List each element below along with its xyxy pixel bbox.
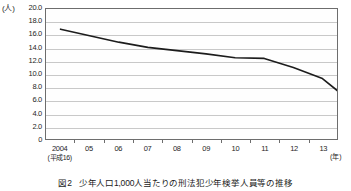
x-axis-tick-label: 07 (144, 144, 152, 153)
x-axis-tick (133, 140, 134, 143)
figure-container: (人) 02.04.06.08.010.012.014.016.018.020.… (0, 0, 351, 191)
plot-area (45, 8, 338, 140)
x-axis-unit-label: (年) (330, 153, 342, 161)
y-axis-tick-label: 14.0 (16, 44, 42, 52)
y-axis-tick-labels: 02.04.06.08.010.012.014.016.018.020.0 (16, 8, 42, 140)
y-axis-tick-label: 6.0 (16, 96, 42, 104)
x-axis-tick-label: 11 (261, 144, 268, 153)
x-axis-tick (309, 140, 310, 143)
y-axis-tick-label: 20.0 (16, 4, 42, 12)
y-axis-tick-label: 12.0 (16, 57, 42, 65)
y-axis-tick-label: 8.0 (16, 83, 42, 91)
x-axis-tick (250, 140, 251, 143)
x-axis-tick-label: 2004(平成16) (48, 144, 72, 162)
y-axis-tick-label: 16.0 (16, 30, 42, 38)
x-axis-tick-label: 13 (319, 144, 327, 153)
x-axis-tick (279, 140, 280, 143)
x-axis-tick-label: 05 (85, 144, 93, 153)
y-axis-tick-label: 2.0 (16, 123, 42, 131)
x-axis-tick (162, 140, 163, 143)
x-axis-era-label: (平成16) (48, 153, 72, 162)
figure-caption: 図2少年人口1,000人当たりの刑法犯少年検挙人員等の推移 (0, 178, 351, 189)
x-axis-tick-labels: 2004(平成16)050607080910111213 (45, 144, 338, 164)
y-axis-tick-label: 0 (16, 136, 42, 144)
y-axis-unit-label: (人) (2, 4, 15, 13)
y-axis-tick-label: 4.0 (16, 110, 42, 118)
x-axis-tick (221, 140, 222, 143)
line-series-svg (46, 9, 337, 139)
x-axis-tick (104, 140, 105, 143)
x-axis-tick (74, 140, 75, 143)
y-axis-tick-label: 10.0 (16, 70, 42, 78)
x-axis-tick-label: 09 (202, 144, 210, 153)
x-axis-tick-label: 06 (114, 144, 122, 153)
x-axis-tick-label: 08 (173, 144, 181, 153)
x-axis-tick (192, 140, 193, 143)
x-axis-tick-label: 10 (232, 144, 240, 153)
series-line-primary (61, 29, 337, 91)
figure-caption-number: 図2 (58, 178, 71, 188)
y-axis-tick-label: 18.0 (16, 17, 42, 25)
x-axis-tick-label: 12 (290, 144, 298, 153)
figure-caption-text: 少年人口1,000人当たりの刑法犯少年検挙人員等の推移 (79, 178, 293, 188)
